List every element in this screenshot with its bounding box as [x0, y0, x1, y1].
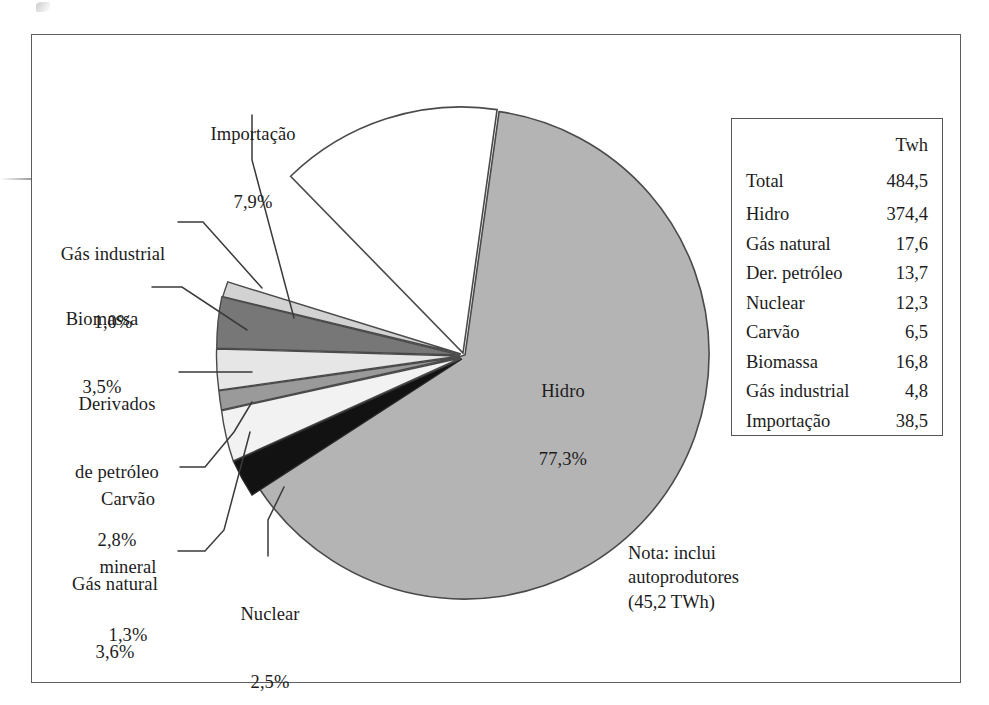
callout-carvao-name1: Carvão	[76, 488, 180, 511]
chart-note-line-1: Nota: inclui	[628, 541, 828, 565]
legend-row-nuclear: Nuclear 12,3	[746, 289, 928, 319]
legend-row-importacao: Importação 38,5	[746, 407, 928, 437]
legend-row-hidro: Hidro 374,4	[746, 200, 928, 230]
legend-label-carvao: Carvão	[746, 318, 876, 348]
pie-center-label-name: Hidro	[508, 380, 618, 403]
legend-header-unit: Twh	[876, 128, 928, 162]
callout-gas-natural: Gás natural 3,6%	[52, 528, 178, 686]
legend-label-der-petroleo: Der. petróleo	[746, 259, 876, 289]
legend-label-importacao: Importação	[746, 407, 876, 437]
pie-center-label-hidro: Hidro 77,3%	[508, 335, 618, 493]
callout-nuclear: Nuclear 2,5%	[208, 558, 332, 705]
callout-importacao-name: Importação	[180, 123, 326, 146]
legend-row-gas-industrial: Gás industrial 4,8	[746, 377, 928, 407]
legend-value-hidro: 374,4	[876, 200, 928, 230]
callout-biomassa-name: Biomassa	[52, 308, 152, 331]
callout-importacao: Importação 7,9%	[180, 78, 326, 236]
legend-value-der-petroleo: 13,7	[876, 259, 928, 289]
legend-table-grid: Twh Total 484,5 Hidro 374,4 Gás natural …	[746, 128, 928, 436]
legend-value-total: 484,5	[876, 162, 928, 200]
legend-label-nuclear: Nuclear	[746, 289, 876, 319]
legend-header-blank	[746, 128, 876, 162]
legend-value-biomassa: 16,8	[876, 348, 928, 378]
chart-note-line-3: (45,2 TWh)	[628, 590, 828, 614]
chart-note: Nota: inclui autoprodutores (45,2 TWh)	[628, 541, 828, 614]
legend-header-row: Twh	[746, 128, 928, 162]
legend-value-nuclear: 12,3	[876, 289, 928, 319]
legend-label-biomassa: Biomassa	[746, 348, 876, 378]
callout-gas-natural-name: Gás natural	[52, 573, 178, 596]
pie-center-label-percent: 77,3%	[508, 448, 618, 471]
chart-note-line-2: autoprodutores	[628, 565, 828, 589]
legend-value-gas-industrial: 4,8	[876, 377, 928, 407]
legend-label-total: Total	[746, 162, 876, 200]
callout-nuclear-percent: 2,5%	[208, 671, 332, 694]
legend-label-gas-industrial: Gás industrial	[746, 377, 876, 407]
legend-row-gas-natural: Gás natural 17,6	[746, 230, 928, 260]
legend-row-der-petroleo: Der. petróleo 13,7	[746, 259, 928, 289]
legend-value-gas-natural: 17,6	[876, 230, 928, 260]
legend-label-hidro: Hidro	[746, 200, 876, 230]
legend-row-carvao: Carvão 6,5	[746, 318, 928, 348]
legend-row-biomassa: Biomassa 16,8	[746, 348, 928, 378]
callout-nuclear-name: Nuclear	[208, 603, 332, 626]
legend-table-body: Twh Total 484,5 Hidro 374,4 Gás natural …	[746, 128, 928, 436]
callout-importacao-percent: 7,9%	[180, 191, 326, 214]
legend-table: Twh Total 484,5 Hidro 374,4 Gás natural …	[731, 118, 943, 436]
legend-label-gas-natural: Gás natural	[746, 230, 876, 260]
legend-value-carvao: 6,5	[876, 318, 928, 348]
legend-value-importacao: 38,5	[876, 407, 928, 437]
callout-gas-natural-percent: 3,6%	[52, 641, 178, 664]
legend-row-total: Total 484,5	[746, 162, 928, 200]
callout-derivados-name1: Derivados	[55, 393, 179, 416]
